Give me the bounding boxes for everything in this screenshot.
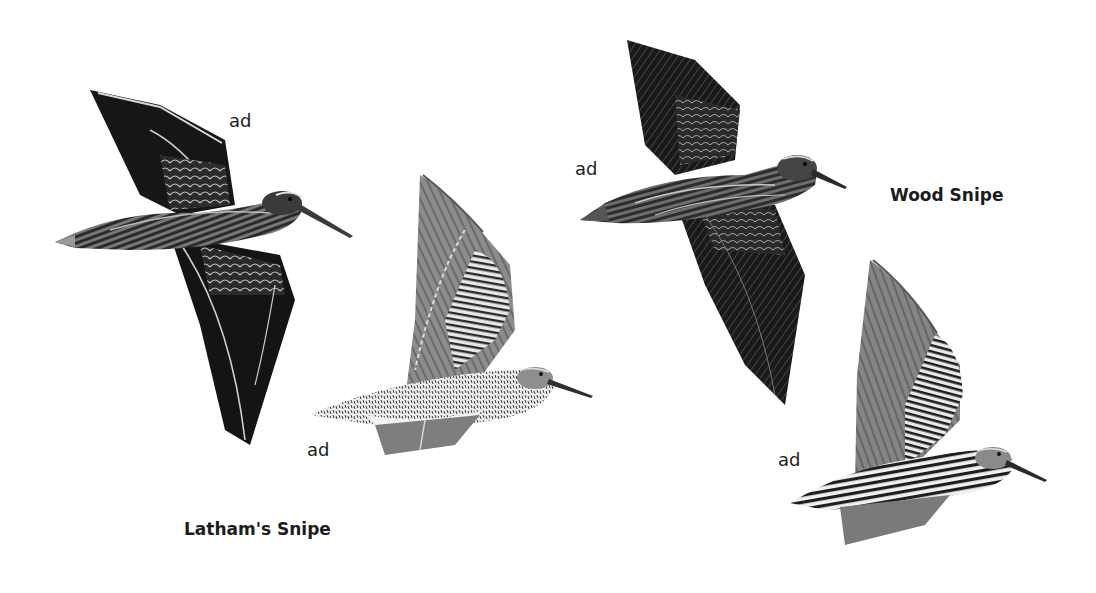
age-label-wood-upperside: ad xyxy=(575,160,597,178)
age-label-lathams-underside: ad xyxy=(307,441,329,459)
lathams-snipe-underside-illustration xyxy=(305,170,595,460)
wood-snipe-underside-illustration xyxy=(785,255,1055,550)
field-guide-plate: ad xyxy=(0,0,1096,593)
species-name-wood-snipe: Wood Snipe xyxy=(890,187,1003,204)
age-label-wood-underside: ad xyxy=(778,451,800,469)
age-label-lathams-upperside: ad xyxy=(229,112,251,130)
species-name-lathams-snipe: Latham's Snipe xyxy=(184,521,331,538)
